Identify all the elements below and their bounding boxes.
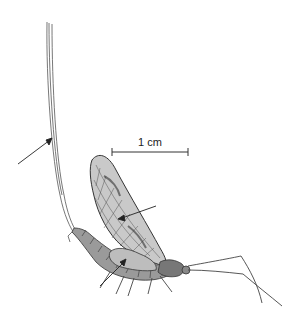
thorax-head bbox=[158, 260, 190, 277]
cerci bbox=[47, 22, 78, 236]
mayfly-figure: 1 cm bbox=[0, 0, 299, 321]
arrow-cerci bbox=[18, 140, 50, 164]
scale-bar-label: 1 cm bbox=[138, 136, 162, 148]
mayfly-illustration bbox=[0, 0, 299, 321]
scale-bar bbox=[112, 148, 188, 156]
